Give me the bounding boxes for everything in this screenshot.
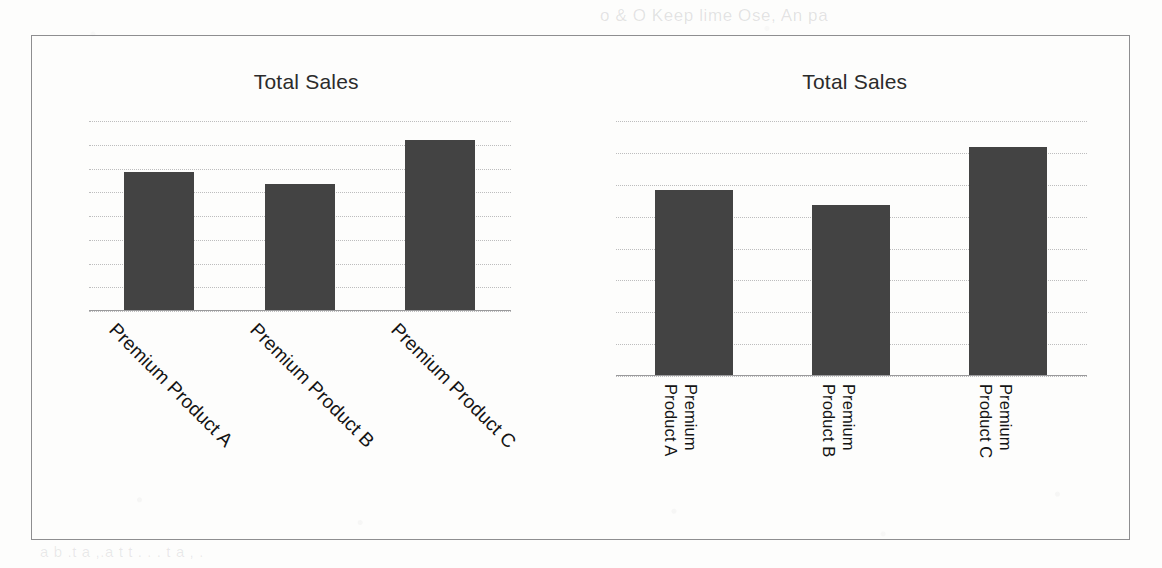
left-chart-plot-area [89,121,511,311]
right-chart-bars [616,121,1088,376]
category-label: Premium Product A [661,384,701,534]
right-chart: Total Sales Premium Product APremium Pro… [581,36,1130,539]
bar[interactable] [969,147,1047,377]
figure-frame: Total Sales Premium Product APremium Pro… [31,35,1130,540]
bar[interactable] [405,140,475,311]
bar[interactable] [124,172,194,311]
category-label: Premium Product B [819,384,859,534]
category-label: Premium Product C [976,384,1016,534]
bar[interactable] [812,205,890,376]
left-chart-bars [89,121,511,311]
right-chart-title: Total Sales [581,70,1130,94]
bar[interactable] [265,184,335,311]
category-label: Premium Product C [386,319,520,453]
page-bleedthrough-top: o & O Keep lime Ose, An pa [600,6,828,26]
right-chart-axis-line [616,375,1088,376]
bar[interactable] [655,190,733,376]
left-chart-title: Total Sales [32,70,581,94]
left-chart: Total Sales Premium Product APremium Pro… [32,36,581,539]
gridline [89,311,511,313]
right-chart-plot-area [616,121,1088,376]
category-label: Premium Product A [105,319,237,451]
charts-row: Total Sales Premium Product APremium Pro… [32,36,1129,539]
page-bleedthrough-bottom: a b .t a ,.a t t . . . t a , . [40,543,204,560]
left-chart-axis-line [89,310,511,311]
gridline [616,376,1088,378]
category-label: Premium Product B [245,319,378,452]
